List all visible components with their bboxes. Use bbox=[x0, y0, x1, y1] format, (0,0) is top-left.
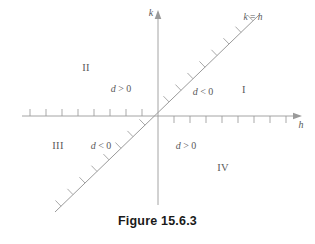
diagonal-hatch bbox=[103, 154, 109, 160]
diagonal-hatch bbox=[67, 189, 73, 195]
diagonal-hatch bbox=[139, 119, 145, 125]
diagonal-line bbox=[55, 15, 259, 212]
quadrant-i-label: I bbox=[242, 85, 246, 96]
discriminant-i-label: d < 0 bbox=[193, 87, 214, 97]
diagonal-hatch bbox=[211, 50, 217, 56]
diagonal-hatch bbox=[91, 166, 97, 172]
diagonal-hatch bbox=[127, 131, 133, 137]
diagonal-hatch bbox=[175, 85, 181, 91]
discriminant-iii-label: d < 0 bbox=[91, 141, 112, 151]
line-equation-label: k = h bbox=[243, 13, 262, 23]
diagonal-hatch bbox=[187, 73, 193, 79]
diagram-canvas bbox=[0, 0, 315, 244]
k-axis-label: k bbox=[149, 8, 153, 18]
diagonal-hatch bbox=[199, 61, 205, 67]
figure-caption: Figure 15.6.3 bbox=[0, 214, 315, 228]
discriminant-ii-label: d > 0 bbox=[111, 84, 132, 94]
quadrant-iii-label: III bbox=[52, 141, 63, 152]
discriminant-operator: < 0 bbox=[96, 140, 112, 151]
discriminant-operator: < 0 bbox=[198, 86, 214, 97]
diagonal-hatch bbox=[55, 200, 61, 206]
discriminant-operator: > 0 bbox=[181, 140, 197, 151]
diagonal-hatch bbox=[223, 38, 229, 44]
discriminant-operator: > 0 bbox=[116, 83, 132, 94]
diagonal-hatch bbox=[235, 27, 241, 33]
h-axis-label: h bbox=[299, 120, 304, 130]
quadrant-ii-label: II bbox=[82, 63, 90, 74]
k-axis-arrowhead bbox=[155, 10, 162, 19]
diagonal-hatch bbox=[115, 143, 121, 149]
line-label-operator: = bbox=[248, 12, 258, 22]
quadrant-iv-label: IV bbox=[217, 163, 229, 174]
diagonal-hatch bbox=[163, 96, 169, 102]
line-label-rhs: h bbox=[258, 12, 263, 22]
diagonal-hatch bbox=[79, 177, 85, 183]
figure-container: k h k = h IIIIIIIVd > 0d < 0d < 0d > 0 F… bbox=[0, 0, 315, 244]
discriminant-iv-label: d > 0 bbox=[176, 141, 197, 151]
